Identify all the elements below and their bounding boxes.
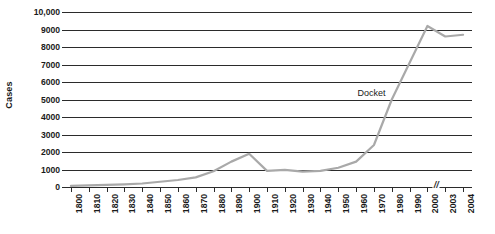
x-tick-label: 1900: [253, 194, 262, 213]
x-tick: [178, 187, 179, 192]
x-tick: [214, 187, 215, 192]
x-tick: [392, 187, 393, 192]
x-tick-label: 1880: [218, 194, 227, 213]
x-tick: [142, 187, 143, 192]
x-tick-label: 2004: [467, 194, 476, 213]
y-tick-label: 2000: [41, 148, 60, 157]
y-tick-label: 0: [55, 183, 60, 192]
y-tick-label: 10,000: [34, 8, 60, 17]
x-tick: [107, 187, 108, 192]
x-tick: [320, 187, 321, 192]
y-tick-label: 8000: [41, 43, 60, 52]
x-tick: [427, 187, 428, 192]
x-tick-label: 1870: [200, 194, 209, 213]
y-axis-title-label: Cases: [4, 81, 14, 109]
x-tick-label: 1920: [289, 194, 298, 213]
x-tick-label: 2000: [431, 194, 440, 213]
x-tick: [89, 187, 90, 192]
x-tick: [231, 187, 232, 192]
plot-area: Docket: [62, 12, 472, 187]
y-tick-label: 1000: [41, 165, 60, 174]
x-tick: [160, 187, 161, 192]
axis-break-icon: //: [433, 181, 440, 190]
x-tick: [338, 187, 339, 192]
y-tick-label: 7000: [41, 60, 60, 69]
x-tick: [249, 187, 250, 192]
x-tick-label: 1950: [342, 194, 351, 213]
x-tick-label: 1850: [164, 194, 173, 213]
x-tick-label: 2003: [449, 194, 458, 213]
x-tick-label: 1990: [414, 194, 423, 213]
x-tick-label: 1830: [128, 194, 137, 213]
x-tick: [410, 187, 411, 192]
x-tick: [71, 187, 72, 192]
x-tick: [374, 187, 375, 192]
y-tick-label: 6000: [41, 78, 60, 87]
x-axis: 1800181018201830184018501860187018801890…: [62, 187, 472, 234]
x-tick: [124, 187, 125, 192]
x-tick-label: 1860: [182, 194, 191, 213]
y-axis-tick-labels: 010002000300040005000600070008000900010,…: [16, 0, 60, 190]
x-tick-label: 1800: [75, 194, 84, 213]
y-tick-label: 3000: [41, 130, 60, 139]
series-docket-svg: [62, 12, 472, 187]
x-tick-label: 1960: [360, 194, 369, 213]
x-tick: [463, 187, 464, 192]
x-tick-label: 1930: [307, 194, 316, 213]
x-tick-label: 1810: [93, 194, 102, 213]
x-tick: [196, 187, 197, 192]
x-tick-label: 1820: [111, 194, 120, 213]
series-docket-line: [71, 26, 463, 186]
x-tick: [285, 187, 286, 192]
x-tick: [445, 187, 446, 192]
y-tick-label: 4000: [41, 113, 60, 122]
docket-cases-line-chart: Cases 0100020003000400050006000700080009…: [0, 0, 495, 234]
y-tick-label: 5000: [41, 95, 60, 104]
y-tick-label: 9000: [41, 25, 60, 34]
x-tick-label: 1940: [324, 194, 333, 213]
y-axis-title: Cases: [2, 0, 16, 190]
x-tick-label: 1910: [271, 194, 280, 213]
x-tick-label: 1970: [378, 194, 387, 213]
x-tick: [356, 187, 357, 192]
x-tick-label: 1890: [235, 194, 244, 213]
x-tick-label: 1980: [396, 194, 405, 213]
x-tick-label: 1840: [146, 194, 155, 213]
series-label-docket: Docket: [356, 88, 388, 98]
x-tick: [267, 187, 268, 192]
x-tick: [303, 187, 304, 192]
